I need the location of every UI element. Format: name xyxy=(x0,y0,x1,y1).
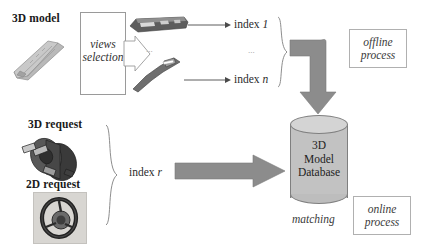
thumbnail-2d-request xyxy=(33,192,87,244)
offline-process-box: offline process xyxy=(349,29,407,68)
index-last-word: index xyxy=(234,73,260,85)
database-label-line3: Database xyxy=(290,166,348,180)
label-index-request: index r xyxy=(129,166,162,178)
cylinder-top-ellipse xyxy=(290,115,348,134)
index-request-word: index xyxy=(129,166,155,178)
database-cylinder: 3D Model Database xyxy=(290,115,348,207)
offline-process-line1: offline xyxy=(363,36,392,49)
label-2d-request: 2D request xyxy=(26,178,80,190)
arrow-view1-to-index1 xyxy=(188,20,232,30)
brace-requests xyxy=(104,124,120,226)
thumbnail-3d-model xyxy=(8,38,70,86)
index-first-word: index xyxy=(234,18,260,30)
arrow-view2-to-indexn xyxy=(184,75,232,85)
label-3d-request: 3D request xyxy=(28,118,82,130)
index-ellipsis: ... xyxy=(248,45,255,55)
request-to-database-arrow-icon xyxy=(175,155,287,189)
label-3d-model: 3D model xyxy=(12,12,60,24)
online-process-line2: process xyxy=(365,216,400,229)
label-index-first: index 1 xyxy=(234,18,268,30)
label-matching: matching xyxy=(292,213,335,225)
offline-process-line2: process xyxy=(361,49,396,62)
database-label-line1: 3D xyxy=(290,139,348,153)
database-label-line2: Model xyxy=(290,153,348,167)
online-process-line1: online xyxy=(368,203,397,216)
thumbnail-view-2 xyxy=(130,56,186,96)
offline-to-database-arrow-icon xyxy=(288,34,346,116)
index-first-variable: 1 xyxy=(262,18,268,30)
views-ellipsis: ... xyxy=(146,44,153,54)
diagram-canvas: 3D model views selection ... xyxy=(0,0,423,250)
label-index-last: index n xyxy=(234,73,268,85)
index-last-variable: n xyxy=(262,73,268,85)
index-request-variable: r xyxy=(157,166,161,178)
online-process-box: online process xyxy=(353,196,411,235)
thumbnail-view-1 xyxy=(128,14,190,36)
